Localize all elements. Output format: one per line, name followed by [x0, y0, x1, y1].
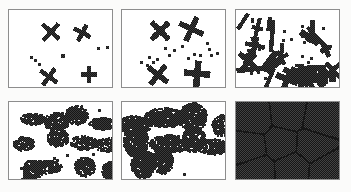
- panel-canvas-3: [236, 10, 339, 87]
- panel-stage-2: [121, 9, 226, 88]
- panel-canvas-2: [122, 10, 225, 87]
- panel-stage-1: [8, 9, 113, 88]
- simulation-figure: [0, 0, 351, 192]
- panel-stage-5: [121, 101, 226, 180]
- panel-canvas-4: [9, 102, 112, 179]
- panel-stage-6: [235, 101, 340, 180]
- panel-canvas-1: [9, 10, 112, 87]
- panel-canvas-5: [122, 102, 225, 179]
- panel-stage-4: [8, 101, 113, 180]
- panel-canvas-6: [236, 102, 339, 179]
- panel-stage-3: [235, 9, 340, 88]
